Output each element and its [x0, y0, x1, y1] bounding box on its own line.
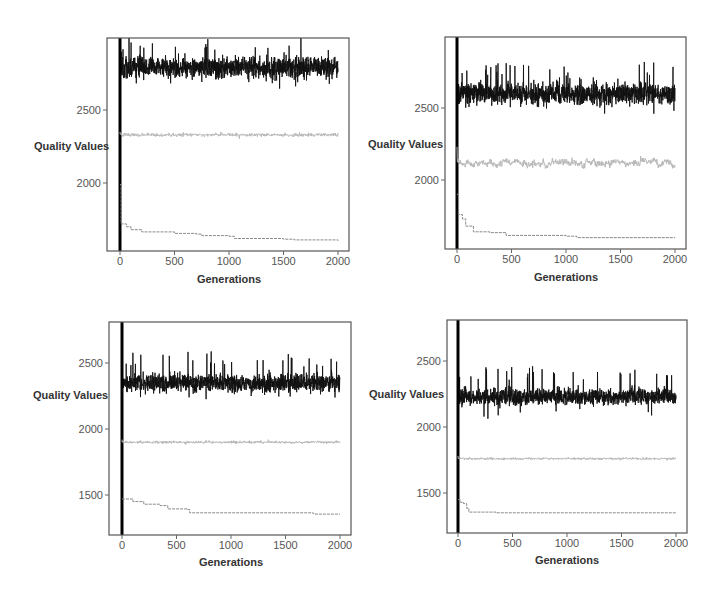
- x-tick-label: 1500: [609, 537, 633, 549]
- y-axis-label: Quality Values: [368, 138, 443, 150]
- x-tick-label: 0: [119, 539, 125, 551]
- y-tick-label: 2000: [415, 174, 439, 186]
- x-tick-label: 1000: [554, 253, 578, 265]
- plot-area: [458, 320, 676, 533]
- y-tick-label: 2000: [77, 177, 101, 189]
- series-mean-line: [120, 132, 338, 139]
- series-mean-line: [122, 440, 340, 445]
- chart-panel-bottom-left: 0500100015002000150020002500Quality Valu…: [33, 322, 352, 568]
- series-max-line: [122, 322, 340, 528]
- plot-area: [120, 29, 338, 263]
- plot-area: [122, 322, 340, 535]
- y-tick-label: 1500: [79, 489, 103, 501]
- x-axis-label: Generations: [535, 554, 599, 566]
- x-tick-label: 1500: [271, 255, 295, 267]
- x-tick-label: 2000: [326, 255, 350, 267]
- series-min-line: [120, 184, 338, 240]
- series-max-line: [120, 29, 338, 263]
- series-max-line: [457, 37, 675, 238]
- series-mean-line: [458, 456, 676, 460]
- x-tick-label: 1500: [608, 253, 632, 265]
- x-tick-label: 1000: [219, 539, 243, 551]
- y-tick-label: 2000: [417, 421, 441, 433]
- plot-frame: [445, 37, 686, 249]
- x-tick-label: 0: [455, 537, 461, 549]
- x-axis-label: Generations: [197, 273, 261, 285]
- y-tick-label: 2500: [77, 104, 101, 116]
- chart-panel-top-right: 050010001500200020002500Quality ValuesGe…: [368, 37, 687, 283]
- x-axis-label: Generations: [534, 271, 598, 283]
- x-tick-label: 0: [117, 255, 123, 267]
- y-axis-label: Quality Values: [33, 389, 108, 401]
- x-tick-label: 1000: [217, 255, 241, 267]
- y-tick-label: 2500: [415, 102, 439, 114]
- figure-canvas: 050010001500200020002500Quality ValuesGe…: [0, 0, 722, 595]
- y-tick-label: 2500: [79, 357, 103, 369]
- series-min-line: [122, 499, 340, 514]
- plot-frame: [447, 320, 687, 533]
- x-tick-label: 1000: [555, 537, 579, 549]
- y-axis-label: Quality Values: [34, 140, 109, 152]
- x-tick-label: 2000: [328, 539, 352, 551]
- x-tick-label: 2000: [664, 537, 688, 549]
- plot-frame: [109, 322, 351, 535]
- x-tick-label: 500: [502, 253, 520, 265]
- x-tick-label: 2000: [663, 253, 687, 265]
- series-min-line: [458, 500, 676, 513]
- x-tick-label: 1500: [273, 539, 297, 551]
- series-mean-line: [457, 147, 675, 169]
- x-tick-label: 500: [167, 539, 185, 551]
- x-tick-label: 500: [503, 537, 521, 549]
- plot-area: [457, 37, 675, 249]
- x-axis-label: Generations: [199, 556, 263, 568]
- y-tick-label: 2000: [79, 423, 103, 435]
- y-tick-label: 1500: [417, 487, 441, 499]
- x-tick-label: 500: [165, 255, 183, 267]
- x-tick-label: 0: [454, 253, 460, 265]
- series-max-line: [458, 320, 676, 526]
- series-min-line: [457, 194, 675, 238]
- chart-panel-top-left: 050010001500200020002500Quality ValuesGe…: [34, 29, 350, 285]
- y-axis-label: Quality Values: [369, 388, 444, 400]
- chart-panel-bottom-right: 0500100015002000150020002500Quality Valu…: [369, 320, 688, 566]
- y-tick-label: 2500: [417, 355, 441, 367]
